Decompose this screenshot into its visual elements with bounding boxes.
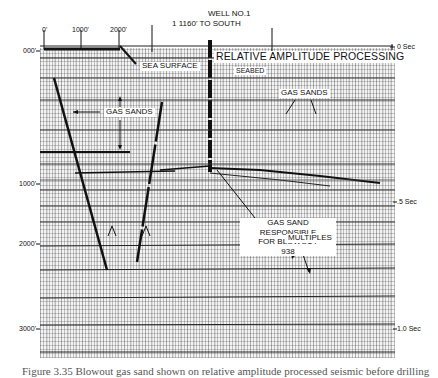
well-offset: 1 1160' TO SOUTH	[172, 20, 241, 29]
depth-label-2000: 2000'	[2, 240, 36, 247]
scale-tick-2000: 2000'	[110, 26, 127, 34]
scale-tick-1000: 1000'	[72, 26, 89, 34]
depth-label-0: 000'	[2, 47, 36, 54]
figure-caption: Figure 3.35 Blowout gas sand shown on re…	[22, 365, 429, 377]
gas-sands-left-label: GAS SANDS	[104, 108, 155, 117]
time-label-10: 1.0 Sec	[397, 325, 421, 332]
well-label: WELL NO.1	[208, 10, 250, 19]
seabed-label: SEABED	[234, 67, 266, 75]
section-title: RELATIVE AMPLITUDE PROCESSING	[214, 51, 406, 63]
scale-tick-0: 0'	[42, 26, 47, 34]
gas-sands-right-label: GAS SANDS	[279, 89, 330, 98]
time-label-0: 0 Sec	[397, 43, 415, 50]
depth-label-3000: 3000'	[2, 325, 36, 332]
time-label-05: .5 Sec	[397, 198, 417, 205]
multiples-label: MULTIPLES	[286, 234, 334, 243]
blowout-line-3: 938	[242, 247, 334, 257]
sea-surface-label: SEA SURFACE	[140, 62, 200, 71]
depth-label-1000: 1000'	[2, 180, 36, 187]
